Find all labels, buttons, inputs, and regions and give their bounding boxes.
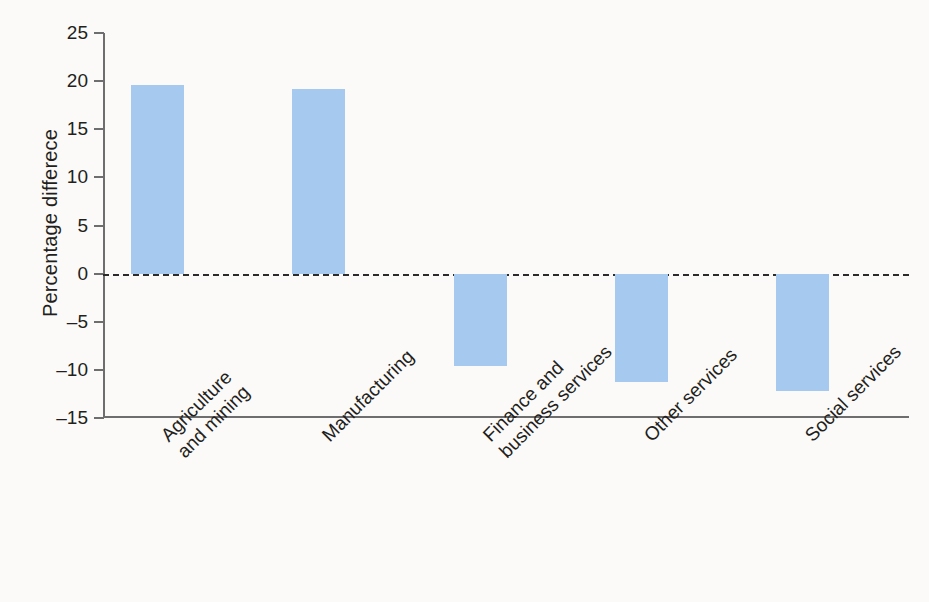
y-tick-mark xyxy=(94,176,104,178)
y-tick-mark xyxy=(94,80,104,82)
y-tick-mark xyxy=(94,32,104,34)
y-tick-label: 5 xyxy=(32,216,88,235)
y-tick-label: 20 xyxy=(32,71,88,90)
x-axis-label-line: Manufacturing xyxy=(317,345,419,447)
x-axis-label: Agricultureand mining xyxy=(156,364,254,462)
y-tick-mark xyxy=(94,369,104,371)
bar xyxy=(615,274,668,383)
y-tick-mark xyxy=(94,321,104,323)
y-tick-mark xyxy=(94,128,104,130)
y-tick-label-wrap: 0 xyxy=(26,274,88,275)
y-tick-label-wrap: –15 xyxy=(26,418,88,419)
y-tick-label: –15 xyxy=(32,408,88,427)
x-axis-label: Manufacturing xyxy=(317,345,419,447)
y-tick-label: 0 xyxy=(32,264,88,283)
bar xyxy=(776,274,829,391)
y-tick-label-wrap: –5 xyxy=(26,322,88,323)
y-tick-label: –5 xyxy=(32,312,88,331)
y-tick-label-wrap: 5 xyxy=(26,226,88,227)
y-tick-mark xyxy=(94,225,104,227)
bar-chart-figure: Percentage differece 2520151050–5–10–15 … xyxy=(0,0,929,602)
bar xyxy=(292,89,345,274)
y-tick-label: 10 xyxy=(32,167,88,186)
y-tick-label: –10 xyxy=(32,360,88,379)
y-tick-label: 15 xyxy=(32,119,88,138)
bar xyxy=(454,274,507,366)
y-tick-label: 25 xyxy=(32,23,88,42)
y-tick-label-wrap: –10 xyxy=(26,370,88,371)
y-tick-label-wrap: 10 xyxy=(26,177,88,178)
y-tick-label-wrap: 20 xyxy=(26,81,88,82)
y-tick-label-wrap: 15 xyxy=(26,129,88,130)
bar xyxy=(131,85,184,274)
y-tick-mark xyxy=(94,417,104,419)
y-tick-label-wrap: 25 xyxy=(26,33,88,34)
